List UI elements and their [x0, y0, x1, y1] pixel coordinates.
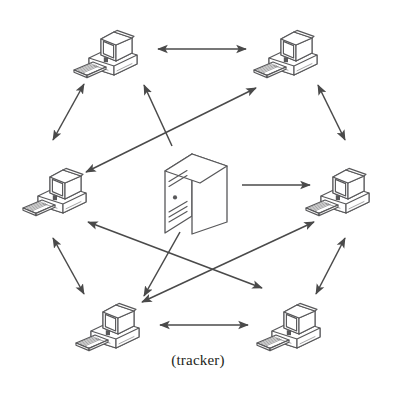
- power-button-icon: [287, 330, 291, 335]
- network-canvas: [0, 0, 396, 403]
- node-peer-middle-right[interactable]: [306, 168, 369, 215]
- node-peer-middle-left[interactable]: [23, 168, 86, 215]
- edge-middle-left-bottom-left: [53, 238, 84, 294]
- edge-middle-right-bottom-right: [316, 238, 345, 294]
- p2p-network-diagram: (tracker): [0, 0, 396, 403]
- edge-bottom-left-middle-right: [142, 222, 314, 302]
- server-power-led-icon: [173, 195, 177, 199]
- power-button-icon: [106, 330, 110, 335]
- edge-middle-left-top-right: [86, 88, 256, 172]
- tracker-caption-label: (tracker): [171, 352, 224, 368]
- power-button-icon: [53, 195, 57, 200]
- node-tracker-server[interactable]: [165, 154, 227, 234]
- power-button-icon: [104, 57, 108, 62]
- power-button-icon: [336, 195, 340, 200]
- node-peer-bottom-right[interactable]: [257, 303, 320, 350]
- node-peer-top-right[interactable]: [254, 30, 317, 77]
- edge-top-right-middle-right: [318, 85, 345, 140]
- power-button-icon: [284, 57, 288, 62]
- edge-top-left-middle-left: [53, 84, 84, 140]
- edge-middle-left-bottom-right: [88, 222, 262, 288]
- node-peer-bottom-left[interactable]: [76, 303, 139, 350]
- node-peer-top-left[interactable]: [74, 30, 137, 77]
- figure-caption-row: (tracker): [0, 352, 396, 369]
